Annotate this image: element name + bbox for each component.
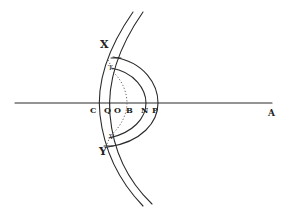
dotted-arc bbox=[110, 72, 127, 136]
label-x: X bbox=[100, 38, 109, 51]
label-t: T bbox=[108, 64, 113, 72]
label-v: V bbox=[108, 133, 115, 141]
diagram-canvas: X T Y V C Q O B N P A bbox=[0, 0, 289, 215]
outer-arc bbox=[108, 57, 158, 147]
label-p: P bbox=[152, 105, 158, 115]
diagram-svg: X T Y V C Q O B N P A bbox=[0, 0, 289, 215]
label-y: Y bbox=[98, 145, 107, 158]
label-c: C bbox=[90, 105, 96, 115]
label-b: B bbox=[126, 105, 133, 115]
label-q: Q bbox=[104, 105, 111, 115]
label-o: O bbox=[114, 105, 121, 115]
label-a: A bbox=[267, 108, 276, 118]
label-n: N bbox=[141, 105, 148, 115]
